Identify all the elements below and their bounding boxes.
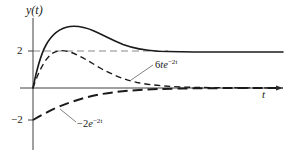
curve-total-response xyxy=(33,26,283,88)
curve-neg2e-2t xyxy=(33,88,283,120)
t-axis-arrowhead xyxy=(276,86,283,91)
curve-label-neg2e-2t: −2e−2t xyxy=(77,119,102,130)
figure-container: y(t) 2 −2 t 6te−2t −2e−2t xyxy=(0,0,297,167)
curve-label-6te-2t: 6te−2t xyxy=(155,60,177,71)
curve-label-neg2e-exponent: −2t xyxy=(93,117,103,125)
leader-line-6te xyxy=(131,65,153,80)
y-tick-label-neg2: −2 xyxy=(11,114,23,125)
curve-label-6te-exponent: −2t xyxy=(168,58,178,66)
leader-line-neg2e xyxy=(60,109,76,122)
y-tick-label-2: 2 xyxy=(17,45,23,56)
plot-canvas xyxy=(0,0,297,167)
y-axis-label: y(t) xyxy=(26,4,43,16)
t-axis-label: t xyxy=(262,89,265,100)
curve-label-neg2e-coefficient: −2 xyxy=(77,118,88,129)
